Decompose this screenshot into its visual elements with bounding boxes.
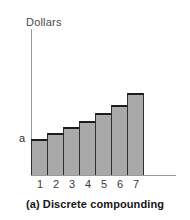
discrete-compounding-figure: Dollars a (a) Discrete compounding 12345… — [0, 0, 190, 220]
y-axis-title: Dollars — [26, 16, 62, 28]
x-tick-label-3: 3 — [65, 178, 79, 190]
x-tick-label-6: 6 — [113, 178, 127, 190]
bar-period-1 — [31, 139, 48, 175]
bar-period-4 — [79, 121, 96, 175]
x-tick-label-7: 7 — [129, 178, 143, 190]
principal-level-label: a — [19, 132, 25, 144]
bar-period-7 — [127, 93, 144, 175]
x-axis-line — [31, 175, 176, 176]
x-tick-label-2: 2 — [49, 178, 63, 190]
x-tick-label-5: 5 — [97, 178, 111, 190]
bar-period-2 — [47, 133, 64, 175]
bar-period-3 — [63, 127, 80, 175]
x-tick-label-4: 4 — [81, 178, 95, 190]
figure-caption: (a) Discrete compounding — [0, 198, 190, 210]
bar-period-6 — [111, 105, 128, 175]
bar-period-5 — [95, 113, 112, 175]
x-tick-label-1: 1 — [33, 178, 47, 190]
